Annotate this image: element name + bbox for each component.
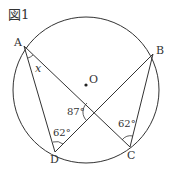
angle-arc-d [53, 142, 63, 144]
circle-diagram: 図1 O A B C D x 87° 62° 62° [0, 0, 171, 171]
center-label-o: O [89, 73, 98, 86]
point-label-b: B [156, 44, 164, 57]
angle-label-62-c: 62° [118, 118, 136, 129]
angle-label-62-d: 62° [53, 127, 71, 138]
point-label-a: A [13, 36, 23, 49]
angle-label-x: x [35, 62, 42, 75]
circle-outline [13, 17, 159, 163]
point-label-c: C [127, 149, 135, 162]
geometry-figure: 図1 O A B C D x 87° 62° 62° [0, 0, 171, 171]
figure-label: 図1 [8, 7, 29, 22]
angle-label-87: 87° [67, 106, 85, 117]
point-label-d: D [50, 153, 59, 166]
center-dot [84, 83, 87, 86]
angle-arc-c [122, 136, 133, 140]
angle-arc-a [28, 55, 33, 58]
segment-bc [130, 54, 153, 147]
